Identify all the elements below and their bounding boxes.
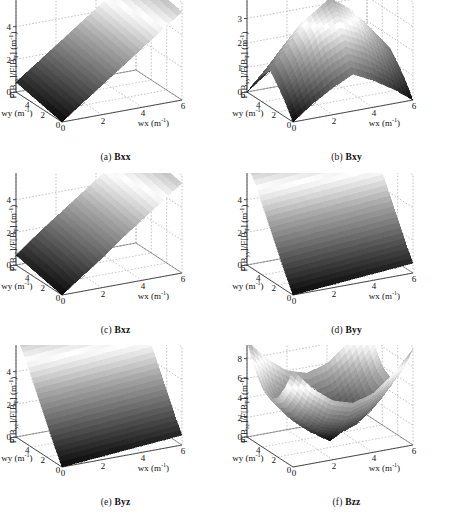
svg-text:6: 6	[181, 101, 186, 111]
svg-text:8: 8	[238, 354, 243, 364]
z-axis-label: F[Bxx]/F[BT] (m-1)	[7, 32, 19, 99]
svg-text:6: 6	[412, 101, 417, 111]
svg-text:4: 4	[7, 22, 12, 32]
surface-mesh-e	[16, 345, 182, 467]
svg-text:0: 0	[292, 468, 297, 478]
caption-name-d: Byy	[345, 325, 361, 335]
svg-text:2: 2	[40, 110, 45, 120]
caption-index-d: (d)	[331, 325, 343, 335]
svg-text:2: 2	[40, 283, 45, 293]
svg-text:2: 2	[40, 455, 45, 465]
panel-c: 024602460246wx (m-1)wy (m-1)F[Bxz]/F[BT]…	[0, 173, 231, 346]
wy-axis-label: wy (m-1)	[232, 451, 263, 462]
wy-axis-label: wy (m-1)	[1, 451, 32, 462]
panel-a: 024602460246wx (m-1)wy (m-1)F[Bxx]/F[BT]…	[0, 0, 231, 173]
panel-caption-e: (e) Byz	[0, 497, 231, 507]
caption-index-e: (e)	[101, 497, 112, 507]
svg-text:0: 0	[61, 296, 66, 306]
wy-axis-label: wy (m-1)	[232, 106, 263, 117]
svg-text:4: 4	[7, 367, 12, 377]
wx-axis-label: wx (m-1)	[138, 461, 169, 472]
figure-grid: 024602460246wx (m-1)wy (m-1)F[Bxx]/F[BT]…	[0, 0, 462, 518]
wx-axis-label: wx (m-1)	[369, 289, 400, 300]
svg-text:4: 4	[7, 195, 12, 205]
svg-text:2: 2	[271, 110, 276, 120]
caption-index-f: (f)	[332, 497, 342, 507]
panel-d: 024602460246wx (m-1)wy (m-1)F[Byy]/F[BT]…	[231, 173, 462, 346]
svg-text:2: 2	[101, 461, 106, 471]
wy-axis-label: wy (m-1)	[1, 279, 32, 290]
svg-text:0: 0	[287, 293, 292, 303]
surface-plot-e: 024602460246wx (m-1)wy (m-1)F[Byz]/F[BT]…	[0, 345, 231, 500]
caption-name-f: Bzz	[345, 497, 360, 507]
svg-text:4: 4	[238, 195, 243, 205]
svg-text:3: 3	[238, 14, 243, 24]
svg-text:2: 2	[332, 116, 337, 126]
svg-text:2: 2	[101, 116, 106, 126]
wy-axis-label: wy (m-1)	[232, 279, 263, 290]
panel-caption-f: (f) Bzz	[231, 497, 462, 507]
z-axis-label: F[Bxz]/F[BT] (m-1)	[7, 205, 19, 272]
surface-plot-d: 024602460246wx (m-1)wy (m-1)F[Byy]/F[BT]…	[231, 173, 462, 328]
panel-caption-b: (b) Bxy	[231, 152, 462, 162]
surface-plot-c: 024602460246wx (m-1)wy (m-1)F[Bxz]/F[BT]…	[0, 173, 231, 328]
svg-text:2: 2	[271, 283, 276, 293]
surface-mesh-c	[16, 173, 182, 295]
svg-text:6: 6	[181, 446, 186, 456]
panel-e: 024602460246wx (m-1)wy (m-1)F[Byz]/F[BT]…	[0, 345, 231, 518]
surface-mesh-a	[16, 0, 182, 122]
wx-axis-label: wx (m-1)	[138, 116, 169, 127]
svg-text:2: 2	[271, 455, 276, 465]
svg-text:0: 0	[61, 123, 66, 133]
svg-text:0: 0	[287, 120, 292, 130]
wx-axis-label: wx (m-1)	[369, 116, 400, 127]
svg-text:2: 2	[101, 289, 106, 299]
svg-text:0: 0	[292, 123, 297, 133]
svg-text:6: 6	[412, 274, 417, 284]
surface-plot-a: 024602460246wx (m-1)wy (m-1)F[Bxx]/F[BT]…	[0, 0, 231, 155]
svg-text:0: 0	[287, 465, 292, 475]
z-axis-label: F[Bxy]/F[BT] (m-1)	[238, 32, 250, 99]
surface-plot-b: 0123402460246wx (m-1)wy (m-1)F[Bxy]/F[BT…	[231, 0, 462, 155]
surface-plot-f: 024681002460246wx (m-1)wy (m-1)F[Bzz]/F[…	[231, 345, 462, 500]
svg-text:0: 0	[56, 120, 61, 130]
z-axis-label: F[Byy]/F[BT] (m-1)	[238, 205, 250, 272]
z-axis-label: F[Bzz]/F[BT] (m-1)	[238, 377, 250, 443]
panel-caption-a: (a) Bxx	[0, 152, 231, 162]
caption-index-c: (c)	[101, 325, 112, 335]
surface-mesh-f	[247, 345, 413, 441]
caption-name-e: Byz	[114, 497, 130, 507]
svg-text:0: 0	[292, 296, 297, 306]
caption-index-a: (a)	[100, 152, 111, 162]
wx-axis-label: wx (m-1)	[138, 289, 169, 300]
wy-axis-label: wy (m-1)	[1, 106, 32, 117]
surface-mesh-d	[247, 173, 413, 295]
wx-axis-label: wx (m-1)	[369, 461, 400, 472]
caption-name-b: Bxy	[345, 152, 361, 162]
surface-mesh-b	[247, 0, 413, 122]
panel-b: 0123402460246wx (m-1)wy (m-1)F[Bxy]/F[BT…	[231, 0, 462, 173]
svg-text:0: 0	[56, 465, 61, 475]
svg-text:2: 2	[332, 461, 337, 471]
svg-text:0: 0	[56, 293, 61, 303]
svg-text:6: 6	[412, 446, 417, 456]
panel-f: 024681002460246wx (m-1)wy (m-1)F[Bzz]/F[…	[231, 345, 462, 518]
svg-text:0: 0	[61, 468, 66, 478]
panel-caption-d: (d) Byy	[231, 325, 462, 335]
caption-index-b: (b)	[331, 152, 343, 162]
caption-name-a: Bxx	[114, 152, 130, 162]
svg-text:6: 6	[181, 274, 186, 284]
z-axis-label: F[Byz]/F[BT] (m-1)	[7, 377, 19, 444]
panel-caption-c: (c) Bxz	[0, 325, 231, 335]
svg-text:2: 2	[332, 289, 337, 299]
caption-name-c: Bxz	[114, 325, 130, 335]
